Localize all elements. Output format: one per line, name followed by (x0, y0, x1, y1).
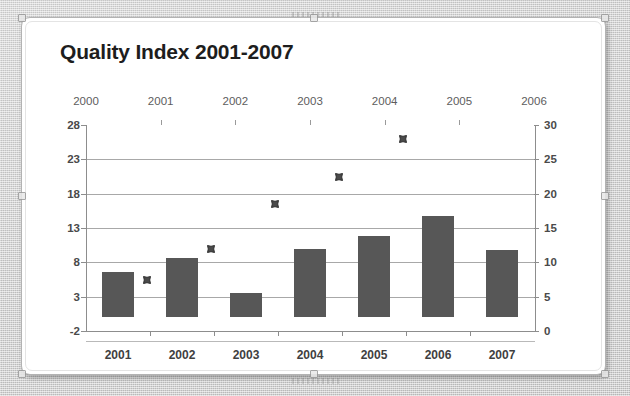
y-axis-tick-right (534, 331, 539, 332)
top-axis-label: 2004 (372, 95, 398, 107)
data-point-marker[interactable] (333, 170, 346, 183)
data-point-marker[interactable] (141, 273, 154, 286)
bottom-category-axis: 2001200220032004200520062007 (22, 348, 607, 364)
x-axis-label: 2003 (233, 348, 260, 362)
top-axis-label: 2002 (223, 95, 249, 107)
x-axis-tick (406, 331, 407, 336)
top-axis-label: 2003 (297, 95, 323, 107)
top-axis-tick (161, 120, 162, 125)
outer-axis-line (86, 341, 535, 342)
top-axis-label: 2006 (521, 95, 547, 107)
y-axis-label-left: 3 (74, 291, 80, 303)
x-axis-label: 2004 (297, 348, 324, 362)
x-axis-tick (470, 331, 471, 336)
x-axis-label: 2002 (169, 348, 196, 362)
y-axis-label-right: 30 (544, 119, 557, 131)
y-axis-label-left: 28 (67, 119, 80, 131)
bar[interactable] (422, 216, 454, 317)
chart-object[interactable]: Quality Index 2001-2007 2000200120022003… (21, 17, 606, 375)
x-axis-tick (342, 331, 343, 336)
top-axis-label: 2005 (447, 95, 473, 107)
gridline (87, 194, 535, 195)
y-axis-label-right: 10 (544, 256, 557, 268)
y-axis-tick-left (81, 125, 86, 126)
top-axis-tick (385, 120, 386, 125)
x-axis-tick (214, 331, 215, 336)
y-axis-tick-right (534, 125, 539, 126)
top-axis-tick (310, 120, 311, 125)
y-axis-tick-right (534, 194, 539, 195)
bar[interactable] (294, 249, 326, 318)
x-axis-label: 2006 (425, 348, 452, 362)
y-axis-label-right: 25 (544, 153, 557, 165)
y-axis-tick-left (81, 297, 86, 298)
x-axis-label: 2005 (361, 348, 388, 362)
top-axis-label: 2000 (73, 95, 99, 107)
scan-artifact-bottom (292, 378, 340, 384)
top-axis-tick (235, 120, 236, 125)
y-axis-tick-right (534, 228, 539, 229)
y-axis-label-left: 13 (67, 222, 80, 234)
y-axis-label-left: -2 (70, 325, 80, 337)
y-axis-tick-left (81, 228, 86, 229)
gridline (87, 159, 535, 160)
plot-wrapper: 2000200120022003200420052006 20012002200… (22, 18, 607, 376)
bar[interactable] (166, 258, 198, 318)
y-axis-tick-right (534, 159, 539, 160)
y-axis-label-right: 0 (544, 325, 550, 337)
y-axis-label-left: 23 (67, 153, 80, 165)
y-axis-tick-right (534, 262, 539, 263)
data-point-marker[interactable] (397, 132, 410, 145)
x-axis-label: 2001 (105, 348, 132, 362)
y-axis-tick-left (81, 159, 86, 160)
y-axis-tick-right (534, 297, 539, 298)
x-axis-tick (278, 331, 279, 336)
x-axis-tick (150, 331, 151, 336)
y-axis-tick-left (81, 194, 86, 195)
bar[interactable] (486, 250, 518, 317)
primary-axis-baseline (86, 331, 535, 332)
x-axis-label: 2007 (489, 348, 516, 362)
y-axis-tick-left (81, 262, 86, 263)
y-axis-label-right: 5 (544, 291, 550, 303)
bar[interactable] (358, 236, 390, 317)
top-axis-label: 2001 (148, 95, 174, 107)
y-axis-label-right: 20 (544, 188, 557, 200)
data-point-marker[interactable] (269, 197, 282, 210)
bar[interactable] (230, 293, 262, 318)
y-axis-label-left: 8 (74, 256, 80, 268)
y-axis-tick-left (81, 331, 86, 332)
gridline (87, 228, 535, 229)
top-category-axis: 2000200120022003200420052006 (22, 95, 607, 111)
data-point-marker[interactable] (205, 242, 218, 255)
y-axis-label-left: 18 (67, 188, 80, 200)
top-axis-tick (459, 120, 460, 125)
bar[interactable] (102, 272, 134, 317)
y-axis-label-right: 15 (544, 222, 557, 234)
